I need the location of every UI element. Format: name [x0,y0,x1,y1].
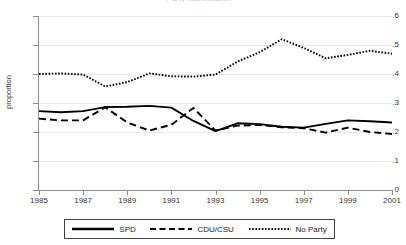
legend-entry-spd[interactable]: SPD [72,225,135,234]
x-tick-label-1999: 1999 [328,196,368,205]
y-tick-.6 [33,16,38,17]
x-tick-1989 [127,191,128,195]
legend-label: CDU/CSU [197,225,233,234]
dashed-line-swatch [150,226,192,232]
chart-legend: SPDCDU/CSUNo Party [64,219,335,239]
x-tick-label-1995: 1995 [240,196,280,205]
y-tick-.2 [33,132,38,133]
solid-line-swatch [72,226,114,232]
series-line-no-party [39,39,392,86]
series-layer [39,16,392,190]
y-axis-label: proportion [5,57,13,127]
legend-entry-cdu-csu[interactable]: CDU/CSU [150,225,233,234]
x-tick-1991 [171,191,172,195]
x-tick-1995 [260,191,261,195]
x-tick-label-2001: 2001 [372,196,406,205]
y-tick-.4 [33,74,38,75]
y-tick-0 [33,190,38,191]
x-tick-label-1985: 1985 [19,196,59,205]
x-tick-1985 [39,191,40,195]
series-line-cdu-csu [39,107,392,134]
chart-title: Party Identification [0,0,399,2]
series-line-spd [39,106,392,131]
y-tick-.1 [33,161,38,162]
dotted-line-swatch [249,226,291,232]
x-tick-2001 [392,191,393,195]
x-tick-1987 [83,191,84,195]
y-tick-.5 [33,45,38,46]
y-tick-.3 [33,103,38,104]
x-tick-label-1991: 1991 [151,196,191,205]
x-tick-label-1987: 1987 [63,196,103,205]
legend-entry-no-party[interactable]: No Party [249,225,327,234]
x-tick-label-1989: 1989 [107,196,147,205]
legend-label: SPD [119,225,135,234]
x-tick-label-1997: 1997 [284,196,324,205]
x-tick-label-1993: 1993 [196,196,236,205]
x-tick-1997 [304,191,305,195]
legend-label: No Party [296,225,327,234]
plot-area [39,16,392,190]
x-tick-1993 [216,191,217,195]
x-tick-1999 [348,191,349,195]
